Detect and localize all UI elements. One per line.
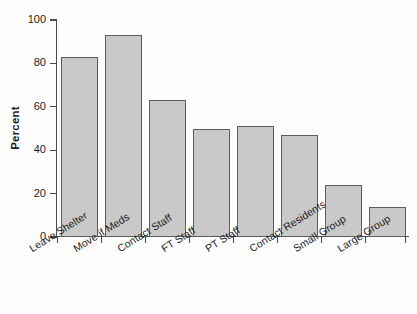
bar-chart: Percent 020406080100Leave ShelterMove if… (0, 0, 417, 314)
y-axis-line (56, 19, 57, 238)
y-axis-tick-label: 80 (6, 56, 46, 68)
y-axis-tick (50, 106, 57, 107)
y-axis-tick-label: 100 (6, 13, 46, 25)
y-axis-tick-label: 20 (6, 187, 46, 199)
y-axis-tick-label: 40 (6, 143, 46, 155)
y-axis-title: Percent (9, 13, 25, 243)
x-axis-tick (405, 237, 406, 243)
y-axis-tick (50, 193, 57, 194)
bar (237, 126, 274, 237)
y-axis-tick (50, 19, 57, 20)
y-axis-tick (50, 63, 57, 64)
y-axis-tick (50, 150, 57, 151)
bar (193, 129, 230, 238)
y-axis-tick-label: 60 (6, 100, 46, 112)
bar (105, 35, 142, 237)
